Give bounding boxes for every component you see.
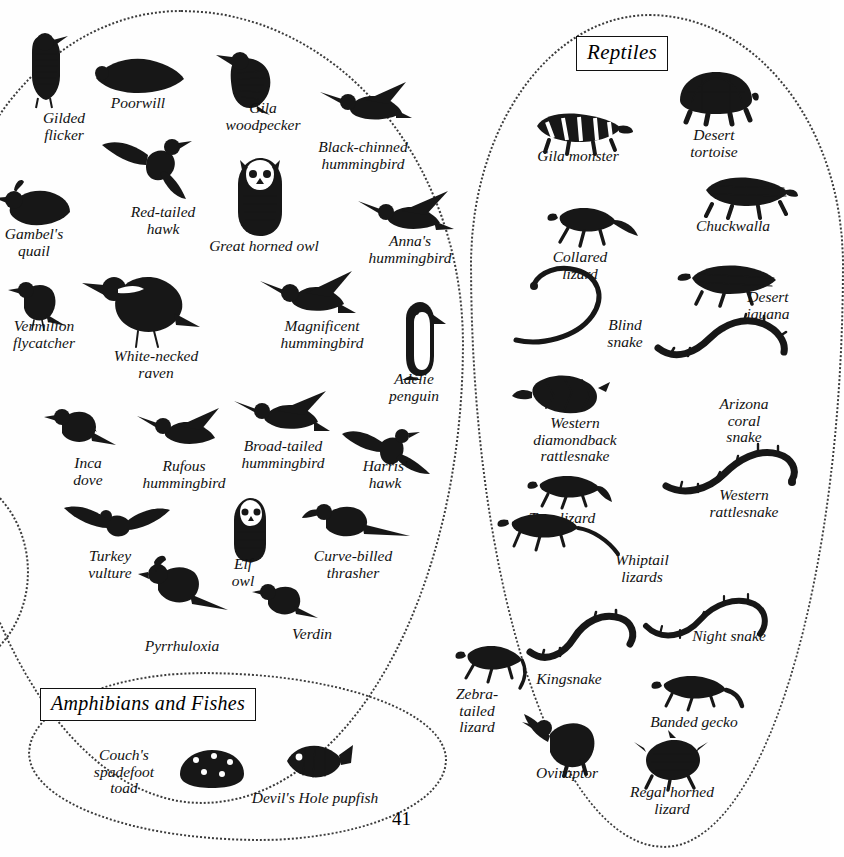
- specimen-illustration: [82, 255, 202, 355]
- specimen-illustration: [62, 500, 172, 546]
- specimen-illustration: [232, 385, 332, 445]
- specimen-label: Harris' hawk: [310, 458, 460, 491]
- specimen-label: Chuckwalla: [658, 218, 808, 235]
- specimen-label: Anna's hummingbird: [335, 233, 485, 266]
- specimen-illustration: [510, 362, 615, 420]
- specimen-illustration: [688, 162, 798, 220]
- specimen-label: Devil's Hole pupfish: [240, 790, 390, 807]
- specimen-illustration: [520, 592, 640, 670]
- specimen-label: Great horned owl: [189, 238, 339, 255]
- specimen-label: Oviraptor: [492, 765, 642, 782]
- specimen-illustration: [300, 490, 415, 552]
- specimen-illustration: [318, 78, 413, 133]
- section-title-reptiles: Reptiles: [576, 36, 668, 71]
- specimen-illustration: [248, 570, 323, 628]
- specimen-illustration: [132, 548, 232, 620]
- specimen-label: White-necked raven: [81, 348, 231, 381]
- specimen-illustration: [442, 630, 532, 692]
- specimen-illustration: [652, 300, 792, 366]
- specimen-label: Night snake: [654, 628, 804, 645]
- specimen-label: Western diamondback rattlesnake: [500, 415, 650, 465]
- specimen-label: Pyrrhuloxia: [107, 638, 257, 655]
- specimen-label: Gila monster: [503, 148, 653, 165]
- specimen-illustration: [668, 62, 760, 127]
- specimen-label: Gila woodpecker: [188, 100, 338, 133]
- specimen-label: Western rattlesnake: [669, 487, 819, 520]
- specimen-illustration: [538, 190, 638, 252]
- specimen-label: Desert tortoise: [639, 127, 789, 160]
- specimen-label: Regal horned lizard: [597, 784, 747, 817]
- specimen-illustration: [486, 498, 621, 560]
- page-number: 41: [392, 808, 411, 830]
- specimen-illustration: [640, 660, 745, 714]
- specimen-illustration: [100, 125, 210, 200]
- section-title-amphibians: Amphibians and Fishes: [40, 688, 256, 721]
- specimen-illustration: [218, 150, 300, 245]
- specimen-illustration: [42, 395, 122, 455]
- specimen-label: Verdin: [237, 626, 387, 643]
- specimen-label: Black-chinned hummingbird: [288, 139, 438, 172]
- specimen-illustration: [388, 300, 446, 380]
- adjacent-region-outline: [0, 470, 29, 674]
- specimen-illustration: [275, 735, 353, 785]
- specimen-label: Couch's spadefoot toad: [49, 747, 199, 797]
- specimen-label: Red-tailed hawk: [88, 204, 238, 237]
- specimen-label: Magnificent hummingbird: [247, 318, 397, 351]
- specimen-label: Banded gecko: [619, 714, 769, 731]
- specimen-label: Adélie penguin: [339, 371, 489, 404]
